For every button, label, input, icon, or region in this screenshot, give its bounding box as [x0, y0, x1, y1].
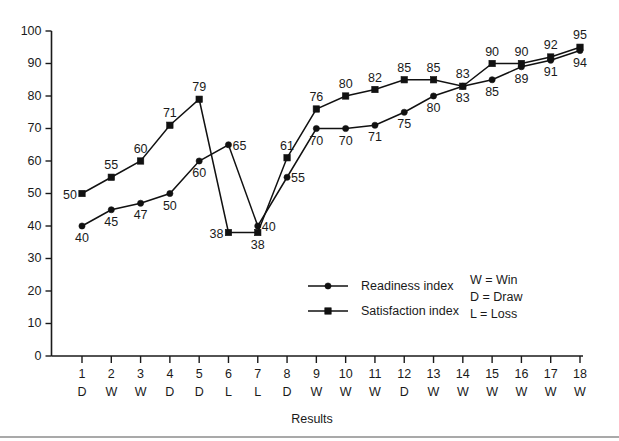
x-tick-label-match: 7	[254, 367, 261, 381]
data-point-marker-square	[255, 229, 261, 235]
data-point-label: 90	[485, 45, 499, 59]
data-point-marker-square	[342, 93, 348, 99]
data-point-label: 76	[309, 90, 323, 104]
data-point-marker-circle	[108, 207, 114, 213]
data-point-label: 91	[544, 65, 558, 79]
x-tick-label-result: L	[225, 385, 232, 399]
data-point-marker-square	[518, 60, 524, 66]
x-axis: 1D2W3W4D5D6L7L8D9W10W11W12D13W14W15W16W1…	[52, 356, 587, 399]
x-tick-label-match: 4	[166, 367, 173, 381]
data-point-label: 94	[573, 56, 587, 70]
x-tick-label-match: 17	[544, 367, 558, 381]
x-tick-label-result: W	[105, 385, 117, 399]
x-tick-label-match: 8	[284, 367, 291, 381]
x-tick-label-result: D	[165, 385, 174, 399]
x-axis-title-label: Results	[291, 412, 333, 426]
y-tick-label: 40	[28, 219, 42, 233]
data-point-marker-circle	[137, 200, 143, 206]
data-point-marker-square	[489, 60, 495, 66]
data-point-marker-circle	[430, 93, 436, 99]
data-point-marker-circle	[343, 125, 349, 131]
legend-marker-square	[325, 308, 331, 314]
data-point-marker-circle	[489, 77, 495, 83]
x-tick-label-match: 16	[514, 367, 528, 381]
x-tick-label-result: W	[516, 385, 528, 399]
data-point-label: 38	[251, 238, 265, 252]
series-line-circle	[82, 51, 580, 227]
y-tick-label: 50	[28, 186, 42, 200]
y-tick-label: 10	[28, 316, 42, 330]
y-tick-label: 70	[28, 121, 42, 135]
y-tick-label: 0	[35, 349, 42, 363]
data-point-marker-square	[284, 155, 290, 161]
series-line-square	[82, 47, 580, 232]
line-chart-svg: 0102030405060708090100 1D2W3W4D5D6L7L8D9…	[0, 0, 619, 441]
data-labels-layer: 4045475060654055707071758083858991945055…	[63, 28, 587, 251]
x-tick-label-match: 14	[456, 367, 470, 381]
data-point-label: 55	[291, 171, 305, 185]
data-point-marker-circle	[372, 122, 378, 128]
data-point-label: 83	[456, 67, 470, 81]
x-tick-label-result: W	[369, 385, 381, 399]
data-point-label: 45	[104, 215, 118, 229]
data-point-label: 47	[134, 208, 148, 222]
data-point-label: 80	[427, 101, 441, 115]
data-point-marker-square	[196, 96, 202, 102]
data-point-marker-square	[313, 106, 319, 112]
data-point-marker-square	[137, 158, 143, 164]
y-axis: 0102030405060708090100	[21, 24, 52, 363]
data-point-label: 60	[134, 142, 148, 156]
legend-marker-circle	[325, 283, 331, 289]
data-point-marker-square	[577, 44, 583, 50]
x-tick-label-match: 11	[368, 367, 381, 381]
data-point-label: 50	[63, 188, 77, 202]
data-point-marker-square	[548, 54, 554, 60]
data-point-marker-circle	[401, 109, 407, 115]
data-point-label: 38	[210, 227, 224, 241]
x-tick-label-result: D	[400, 385, 409, 399]
data-point-label: 65	[233, 139, 247, 153]
data-point-label: 92	[544, 38, 558, 52]
data-point-marker-square	[79, 190, 85, 196]
data-point-marker-square	[167, 122, 173, 128]
x-tick-label-result: W	[135, 385, 147, 399]
x-tick-label-match: 6	[225, 367, 232, 381]
data-point-marker-circle	[225, 142, 231, 148]
data-point-marker-circle	[284, 174, 290, 180]
y-tick-label: 100	[21, 24, 42, 38]
x-tick-label-match: 13	[427, 367, 441, 381]
x-tick-label-result: D	[283, 385, 292, 399]
data-point-marker-square	[430, 77, 436, 83]
legend-label: Readiness index	[361, 279, 454, 293]
x-tick-label-result: L	[254, 385, 261, 399]
data-point-label: 70	[309, 134, 323, 148]
data-point-label: 71	[163, 106, 177, 120]
data-point-label: 71	[368, 130, 382, 144]
data-point-label: 90	[514, 45, 528, 59]
data-point-label: 75	[397, 117, 411, 131]
data-point-marker-circle	[79, 223, 85, 229]
result-key: W = WinD = DrawL = Loss	[470, 273, 523, 321]
data-point-label: 85	[397, 61, 411, 75]
legend: Readiness indexSatisfaction index	[308, 279, 460, 318]
x-tick-label-match: 15	[485, 367, 499, 381]
x-tick-label-match: 2	[108, 367, 115, 381]
data-point-label: 40	[262, 220, 276, 234]
data-point-label: 40	[75, 231, 89, 245]
y-tick-label: 30	[28, 251, 42, 265]
x-tick-label-result: W	[574, 385, 586, 399]
data-point-marker-circle	[167, 190, 173, 196]
x-tick-label-result: W	[428, 385, 440, 399]
legend-label: Satisfaction index	[361, 304, 460, 318]
data-point-label: 55	[104, 158, 118, 172]
y-tick-label: 90	[28, 56, 42, 70]
y-tick-label: 60	[28, 154, 42, 168]
data-point-label: 60	[192, 166, 206, 180]
x-tick-label-match: 18	[573, 367, 587, 381]
x-axis-title: Results	[291, 412, 333, 426]
data-point-label: 82	[368, 71, 382, 85]
data-point-label: 95	[573, 28, 587, 42]
result-key-line: W = Win	[470, 273, 518, 287]
data-point-label: 85	[485, 85, 499, 99]
data-point-label: 50	[163, 199, 177, 213]
